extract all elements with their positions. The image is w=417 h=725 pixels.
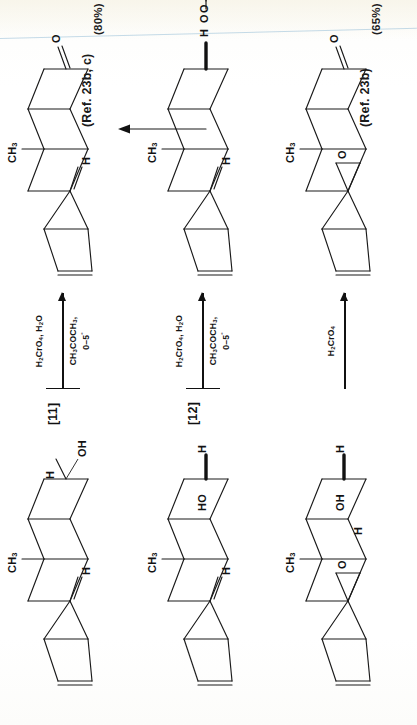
yield-label-r1: (80%) [92,3,104,35]
hydrogen-epoxide-label-r3-substrate: H [352,527,364,535]
structure-label-11: [11] [46,403,60,425]
ketone-oxygen-label-r1-product: O [50,34,62,43]
ketone-oxygen-label-r3-product: O [328,34,340,43]
hydrogen-right-label-r2-substrate: H [196,445,208,453]
epoxide-oxygen-label-r3-product: O [336,150,348,159]
hydroxyl-label-r3-substrate: OH [334,494,346,511]
reaction-arrow-1 [62,293,64,389]
methyl-label-r2-substrate: CH3 [146,552,159,573]
hydroxyl-label-r2-substrate: HO [196,494,208,511]
structure-label-12: [12] [186,402,200,425]
reaction-arrow-3 [344,293,346,389]
hydrogen-label-r1-substrate: H [80,567,92,575]
hydrogen-left-label-r1-substrate: H [44,471,56,479]
structure-13-skeleton [300,455,370,685]
reference-bottom: (Ref. 23b) [358,68,372,127]
vertical-connector-arrow [118,125,206,134]
hydrogen-label-r2-substrate: H [220,567,232,575]
reagent-above-2: H2CrO4, H2O [174,293,184,389]
methyl-label-r3-substrate: CH3 [284,552,297,573]
reagent-below-1-line1: CH3COCH3, [68,293,78,389]
scanned-page: (Ref. 23b, c) (Ref. 23b) CH3 H H OH [11]… [0,0,417,725]
methyl-label-r2-product: CH3 [146,142,159,163]
reagent-below-1-line2: 0–5° [80,293,91,389]
reference-top: (Ref. 23b, c) [80,54,94,127]
ester-oxygen-label: O [198,14,210,23]
hydrogen-lower-label-r2-product: H [198,29,210,37]
hydrogen-label-r1-product: H [80,157,92,165]
rotated-content: (Ref. 23b, c) (Ref. 23b) CH3 H H OH [11]… [0,0,417,725]
methyl-label-r1-product: CH3 [6,142,19,163]
reagent-below-2-line1: CH3COCH3, [208,293,218,389]
hydrogen-label-r2-product: H [220,157,232,165]
reagent-above-1: H2CrO4, H2O [34,293,44,389]
hydroxyl-label-r1-substrate: OH [76,440,88,457]
methyl-label-r1-substrate: CH3 [6,552,19,573]
yield-label-r3: (65%) [370,3,382,35]
methyl-label-r3-product: CH3 [284,142,297,163]
reagent-above-3: H2CrO4 [326,293,336,389]
chromate-oxygen-left-label: O [198,4,210,13]
epoxide-oxygen-label-r3-substrate: O [336,560,348,569]
reaction-arrow-2 [202,293,204,389]
reagent-below-2-line2: 0–5° [220,293,231,389]
hydrogen-right-label-r3-substrate: H [334,445,346,453]
